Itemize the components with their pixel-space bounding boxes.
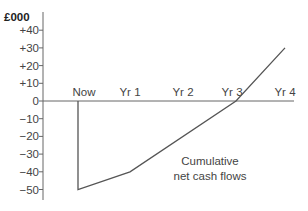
annotation-line-2: net cash flows bbox=[174, 170, 247, 182]
y-tick-label: −20 bbox=[19, 130, 39, 142]
x-category-label: Yr 3 bbox=[221, 86, 242, 98]
y-tick-label: +40 bbox=[19, 24, 39, 36]
annotation-line-1: Cumulative bbox=[181, 155, 239, 167]
y-tick-label: −30 bbox=[19, 148, 39, 160]
chart: +40+30+20+100−10−20−30−40−50 NowYr 1Yr 2… bbox=[0, 0, 308, 211]
x-category-label: Now bbox=[72, 86, 96, 98]
y-unit-label: £000 bbox=[4, 11, 30, 23]
y-ticks: +40+30+20+100−10−20−30−40−50 bbox=[19, 24, 43, 195]
y-tick-label: 0 bbox=[33, 95, 39, 107]
x-category-label: Yr 2 bbox=[172, 86, 193, 98]
y-tick-label: +30 bbox=[19, 42, 39, 54]
y-tick-label: −10 bbox=[19, 113, 39, 125]
cumulative-cash-flow-line bbox=[78, 48, 285, 190]
x-category-label: Yr 4 bbox=[274, 86, 296, 98]
x-labels: NowYr 1Yr 2Yr 3Yr 4 bbox=[72, 86, 296, 98]
y-tick-label: −50 bbox=[19, 184, 39, 196]
x-category-label: Yr 1 bbox=[119, 86, 140, 98]
y-tick-label: −40 bbox=[19, 166, 39, 178]
y-tick-label: +20 bbox=[19, 60, 39, 72]
y-tick-label: +10 bbox=[19, 77, 39, 89]
